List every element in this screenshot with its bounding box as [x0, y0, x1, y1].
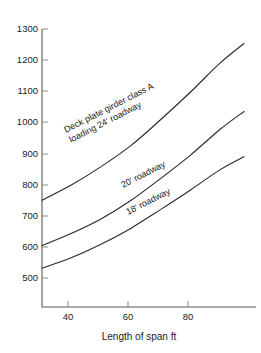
y-tick-label-1200: 1200 — [17, 54, 38, 65]
x-tick-label-60: 60 — [123, 311, 134, 322]
y-tick-label-1300: 1300 — [17, 23, 38, 34]
y-axis-ticks — [42, 29, 48, 278]
y-tick-label-600: 600 — [22, 241, 38, 252]
y-tick-label-1100: 1100 — [18, 85, 38, 96]
x-tick-label-80: 80 — [183, 311, 194, 322]
chart-figure: 1300 1200 1100 1000 900 800 700 600 500 … — [0, 0, 261, 353]
x-axis-ticks — [68, 301, 188, 307]
curve-label-series-1: 20' roadway — [119, 159, 167, 190]
y-tick-label-700: 700 — [22, 210, 38, 221]
y-axis-tick-labels: 1300 1200 1100 1000 900 800 700 600 500 — [17, 23, 38, 283]
curve-label-series-0: Deck plate girder class A loading 24' ro… — [62, 81, 160, 145]
curve-label-series-2-line1: 18' roadway — [124, 186, 172, 217]
y-tick-label-500: 500 — [22, 272, 38, 283]
curve-label-series-1-line1: 20' roadway — [119, 159, 167, 190]
chart-plot-area: 1300 1200 1100 1000 900 800 700 600 500 … — [0, 0, 261, 353]
curve-label-series-2: 18' roadway — [124, 186, 172, 217]
x-tick-label-40: 40 — [63, 311, 74, 322]
y-tick-label-800: 800 — [22, 179, 38, 190]
y-tick-label-1000: 1000 — [17, 116, 38, 127]
x-axis-tick-labels: 40 60 80 — [63, 311, 194, 322]
y-tick-label-900: 900 — [22, 148, 38, 159]
x-axis-title: Length of span ft — [102, 331, 177, 342]
